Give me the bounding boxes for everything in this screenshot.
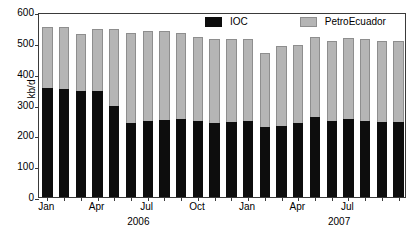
y-axis-tick-label: 500 — [8, 39, 34, 49]
bar-segment-petroecuador — [59, 27, 69, 89]
bar-segment-petroecuador — [193, 37, 203, 121]
y-axis-tick-mark — [35, 168, 39, 169]
bar-segment-petroecuador — [393, 41, 403, 122]
bar-stack — [343, 38, 353, 197]
bar-segment-petroecuador — [143, 31, 153, 121]
bar-segment-ioc — [159, 120, 169, 197]
bar-segment-ioc — [276, 126, 286, 197]
x-axis-year-labels: 20062007 — [38, 216, 406, 232]
bar-segment-petroecuador — [209, 39, 219, 123]
bar-segment-ioc — [260, 127, 270, 197]
y-axis-tick-label: 200 — [8, 131, 34, 141]
x-axis-year-label: 2007 — [314, 216, 364, 228]
bar-segment-ioc — [176, 119, 186, 197]
bar-segment-ioc — [293, 123, 303, 197]
stacked-bar-chart: kb/d 0100200300400500600 IOCPetroEcuador… — [0, 0, 413, 243]
bar-segment-ioc — [193, 121, 203, 197]
y-axis-tick-label: 400 — [8, 70, 34, 80]
bar-segment-ioc — [226, 122, 236, 197]
bar-segment-ioc — [59, 89, 69, 197]
bar-segment-petroecuador — [159, 31, 169, 120]
bar-stack — [92, 29, 102, 197]
x-axis-tick-label: Oct — [177, 201, 217, 213]
plot-area — [38, 13, 406, 198]
y-axis-tick-mark — [35, 76, 39, 77]
bar-segment-petroecuador — [109, 29, 119, 106]
bar-stack — [42, 27, 52, 197]
bar-stack — [193, 37, 203, 197]
bar-segment-petroecuador — [343, 38, 353, 119]
bar-stack — [327, 41, 337, 197]
y-axis-tick-mark — [35, 45, 39, 46]
x-axis-year-label: 2006 — [113, 216, 163, 228]
bar-segment-petroecuador — [126, 33, 136, 123]
bar-stack — [176, 33, 186, 197]
bar-stack — [360, 39, 370, 197]
bar-segment-petroecuador — [176, 33, 186, 119]
legend-item-petro: PetroEcuador — [300, 17, 386, 27]
bar-stack — [159, 31, 169, 197]
bar-segment-petroecuador — [360, 39, 370, 121]
legend-item-ioc: IOC — [205, 17, 248, 27]
bar-stack — [310, 37, 320, 197]
x-axis-tick-label: Jan — [227, 201, 267, 213]
bar-segment-petroecuador — [310, 37, 320, 118]
bar-stack — [226, 39, 236, 197]
bar-segment-petroecuador — [92, 29, 102, 91]
bar-segment-ioc — [126, 123, 136, 197]
y-axis-tick-label: 600 — [8, 8, 34, 18]
chart-legend: IOCPetroEcuador — [205, 14, 386, 29]
x-axis-tick-label: Apr — [77, 201, 117, 213]
x-axis-tick-label: Jul — [327, 201, 367, 213]
legend-label: IOC — [230, 17, 248, 27]
bar-stack — [209, 39, 219, 197]
x-axis-tick-label: Jan — [26, 201, 66, 213]
y-axis-tick-mark — [35, 137, 39, 138]
bar-stack — [243, 39, 253, 197]
bar-segment-petroecuador — [42, 27, 52, 87]
bar-segment-ioc — [209, 123, 219, 197]
bar-segment-ioc — [42, 88, 52, 197]
bar-stack — [276, 46, 286, 197]
bar-segment-petroecuador — [243, 39, 253, 120]
plot-inner — [39, 14, 405, 197]
bar-stack — [126, 33, 136, 197]
bar-segment-ioc — [393, 122, 403, 197]
bar-stack — [59, 27, 69, 197]
x-axis-tick-label: Jul — [127, 201, 167, 213]
bar-segment-ioc — [377, 122, 387, 197]
y-axis-tick-label: 300 — [8, 101, 34, 111]
bar-segment-petroecuador — [293, 45, 303, 123]
legend-swatch-icon — [205, 17, 222, 27]
bar-segment-petroecuador — [76, 34, 86, 91]
legend-swatch-icon — [300, 17, 317, 27]
bar-segment-ioc — [143, 121, 153, 197]
bar-segment-petroecuador — [260, 53, 270, 126]
bar-segment-ioc — [109, 106, 119, 197]
bar-segment-ioc — [327, 121, 337, 197]
bar-segment-petroecuador — [226, 39, 236, 122]
bar-segment-ioc — [76, 91, 86, 197]
y-axis-tick-mark — [35, 14, 39, 15]
legend-label: PetroEcuador — [325, 17, 386, 27]
bar-stack — [393, 41, 403, 197]
bar-segment-petroecuador — [276, 46, 286, 127]
x-axis-tick-labels: JanAprJulOctJanAprJul — [38, 201, 406, 217]
bar-stack — [76, 34, 86, 197]
bar-segment-ioc — [360, 121, 370, 197]
y-axis-tick-label: 100 — [8, 162, 34, 172]
bar-segment-ioc — [310, 117, 320, 197]
bar-segment-ioc — [343, 119, 353, 197]
bar-segment-ioc — [92, 91, 102, 197]
bar-segment-petroecuador — [377, 41, 387, 122]
x-axis-tick-label: Apr — [277, 201, 317, 213]
bar-stack — [109, 29, 119, 197]
bar-stack — [143, 31, 153, 197]
bar-stack — [377, 41, 387, 197]
y-axis-tick-mark — [35, 107, 39, 108]
y-axis-tick-mark — [35, 199, 39, 200]
bar-stack — [293, 45, 303, 197]
bar-stack — [260, 53, 270, 197]
bar-segment-petroecuador — [327, 41, 337, 121]
bar-segment-ioc — [243, 121, 253, 197]
